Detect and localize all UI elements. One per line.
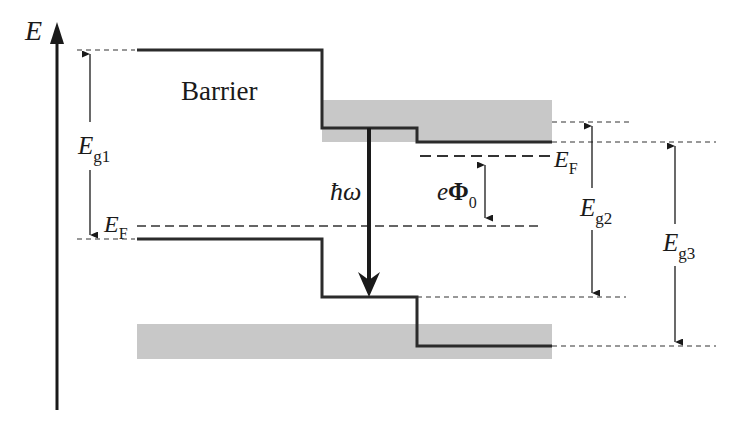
- lower-shaded-band: [137, 324, 552, 359]
- axis-label: E: [24, 15, 42, 46]
- photon-label: ħω: [330, 177, 361, 206]
- band-diagram: E Barrier Eg1 EF ħω eΦ0 EF Eg2 Eg3: [0, 0, 739, 447]
- eg2-label: Eg2: [579, 194, 612, 228]
- upper-shaded-band: [322, 100, 552, 142]
- energy-axis-arrowhead: [50, 22, 64, 44]
- fermi-right-label: EF: [553, 146, 578, 177]
- fermi-left-label: EF: [103, 211, 128, 242]
- eg3-label: Eg3: [662, 229, 695, 263]
- phi0-label: eΦ0: [437, 178, 477, 211]
- barrier-label: Barrier: [181, 76, 257, 106]
- eg1-label: Eg1: [77, 132, 110, 166]
- band-diagram-svg: E Barrier Eg1 EF ħω eΦ0 EF Eg2 Eg3: [0, 0, 739, 447]
